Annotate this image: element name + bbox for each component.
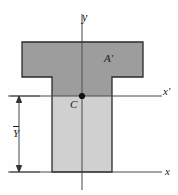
ybar-overbar: [13, 126, 19, 127]
ybar-arrow-bottom: [16, 166, 21, 173]
centroid-dot: [79, 93, 85, 99]
y-axis-label: y: [82, 11, 87, 23]
x-axis-label: x: [165, 166, 170, 177]
x-prime-axis-label-prime: ': [168, 85, 170, 97]
t-section-fill: [0, 0, 178, 195]
t-section-fill-lower: [0, 96, 178, 195]
area-label-prime: ': [111, 52, 113, 64]
ybar-label: Y: [13, 126, 19, 139]
centroid-label: C: [70, 99, 77, 110]
area-label-text: A: [104, 52, 111, 64]
ybar-label-text: Y: [13, 127, 19, 139]
ybar-overbar-wrapper: Y: [13, 126, 19, 139]
centroid-t-section-figure: y A' C x' x Y: [0, 0, 178, 195]
ybar-arrow-top: [16, 96, 21, 103]
x-prime-axis-label: x': [163, 86, 170, 97]
area-label: A': [104, 53, 113, 64]
figure-canvas: [0, 0, 178, 195]
t-section-fill-upper: [0, 0, 178, 96]
